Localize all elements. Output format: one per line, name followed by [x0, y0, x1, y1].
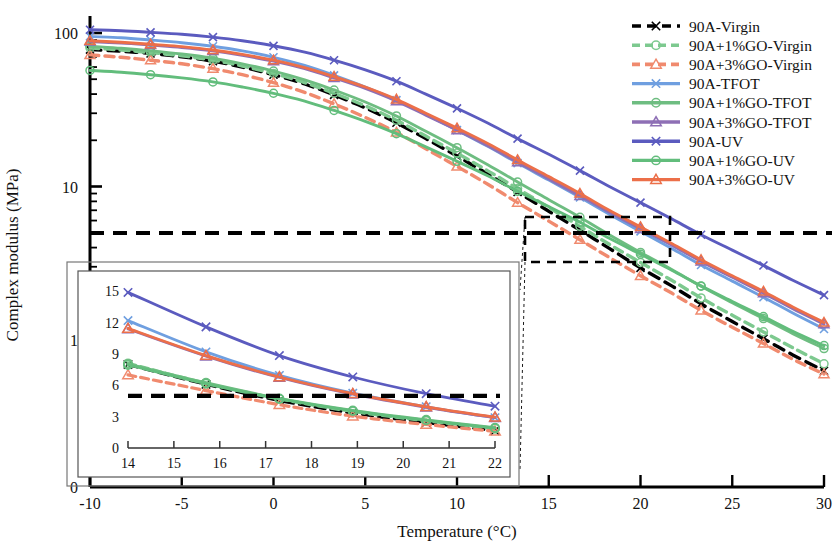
- inset-y-tick-label: 15: [105, 284, 119, 299]
- inset-x-tick-label: 14: [121, 456, 135, 471]
- legend-label: 90A-Virgin: [689, 18, 760, 35]
- y-tick-label: 100: [54, 25, 78, 42]
- legend-label: 90A+1%GO-TFOT: [689, 94, 812, 111]
- inset-x-tick-label: 15: [167, 456, 181, 471]
- inset-y-tick-label: 3: [112, 410, 119, 425]
- x-tick-label: 15: [541, 495, 557, 512]
- legend-label: 90A+3%GO-Virgin: [689, 56, 812, 73]
- y-tick-label: 1: [70, 332, 78, 349]
- legend-label: 90A+1%GO-UV: [689, 152, 796, 169]
- inset-x-tick-label: 20: [396, 456, 410, 471]
- inset-x-tick-label: 17: [259, 456, 273, 471]
- inset-x-tick-label: 18: [305, 456, 319, 471]
- x-tick-label: -5: [175, 495, 188, 512]
- inset-frame: [78, 271, 510, 477]
- complex-modulus-chart: 1001010 -10-5051015202530 Temperature (°…: [0, 0, 834, 549]
- inset-x-tick-label: 19: [350, 456, 364, 471]
- inset-y-tick-label: 0: [112, 441, 119, 456]
- inset-y-tick-label: 6: [112, 378, 119, 393]
- x-tick-label: 20: [633, 495, 649, 512]
- x-tick-label: 5: [361, 495, 369, 512]
- inset-y-tick-label: 9: [112, 347, 119, 362]
- x-tick-label: 30: [816, 495, 832, 512]
- x-tick-label: 25: [724, 495, 740, 512]
- inset-panel: 141516171819202122 03691215: [67, 262, 519, 486]
- y-tick-label: 0: [70, 479, 78, 496]
- y-axis-title: Complex modulus (MPa): [3, 169, 22, 342]
- inset-x-tick-label: 16: [213, 456, 227, 471]
- inset-x-tick-label: 21: [442, 456, 456, 471]
- y-tick-label: 10: [62, 179, 78, 196]
- legend-label: 90A+1%GO-Virgin: [689, 37, 812, 54]
- inset-y-tick-label: 12: [105, 316, 119, 331]
- x-tick-label: -10: [79, 495, 100, 512]
- x-tick-label: 0: [270, 495, 278, 512]
- legend-label: 90A+3%GO-UV: [689, 171, 796, 188]
- legend-label: 90A-UV: [689, 133, 744, 150]
- x-tick-label: 10: [449, 495, 465, 512]
- inset-x-tick-label: 22: [488, 456, 502, 471]
- x-axis-title: Temperature (°C): [397, 522, 516, 541]
- figure-root: 1001010 -10-5051015202530 Temperature (°…: [0, 0, 834, 549]
- legend-label: 90A+3%GO-TFOT: [689, 114, 812, 131]
- legend-label: 90A-TFOT: [689, 75, 760, 92]
- legend: 90A-Virgin90A+1%GO-Virgin90A+3%GO-Virgin…: [632, 18, 812, 189]
